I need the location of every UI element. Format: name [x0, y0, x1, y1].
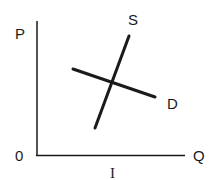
supply-demand-diagram: P Q 0 I S D	[0, 0, 218, 180]
x-axis-label: Q	[193, 147, 205, 164]
demand-label: D	[167, 95, 178, 112]
supply-label: S	[128, 11, 138, 28]
origin-label: 0	[15, 147, 23, 164]
x-tick-label: I	[110, 165, 115, 180]
y-axis-label: P	[15, 25, 25, 42]
